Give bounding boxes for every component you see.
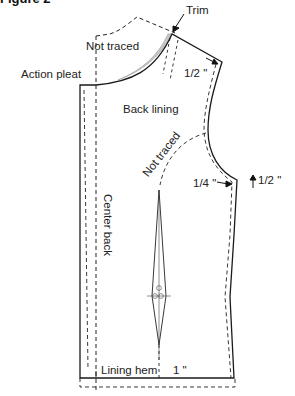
side-half-inch-arrow [250,175,256,188]
label-back-lining: Back lining [123,104,179,116]
label-quarter-inch: 1/4 " [193,178,216,190]
label-action-pleat: Action pleat [21,69,81,81]
label-hem-inch: 1 " [173,365,187,377]
trim-arrow [173,14,184,32]
label-trim: Trim [186,5,209,17]
inner-shoulder-dashed-2 [170,40,178,80]
label-lining-hem: Lining hem [101,365,157,377]
lining-hem-dashed [80,378,235,387]
label-center-back: Center back [102,194,114,256]
label-not-traced-top: Not traced [86,41,139,53]
back-lining-pattern-diagram [0,0,295,396]
center-back-dashed [84,90,88,370]
quarter-inch-arrow [217,181,232,187]
armhole-dashed [204,64,232,378]
label-side-half-inch: 1/2 " [258,175,281,187]
label-shoulder-half-inch: 1/2 " [184,68,207,80]
original-neckline-dashed [96,17,175,36]
